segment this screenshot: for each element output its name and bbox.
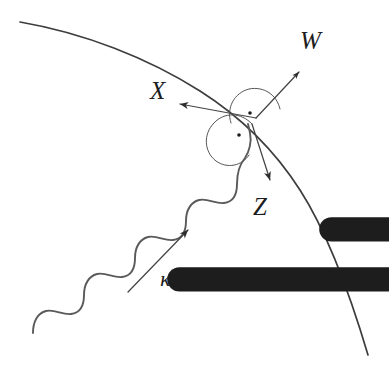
right-angle-markers bbox=[206, 88, 280, 165]
vector-z bbox=[252, 124, 270, 180]
label-x-text: X bbox=[150, 77, 165, 104]
vector-kappa bbox=[128, 230, 188, 292]
label-kappa-text: κ bbox=[160, 266, 171, 291]
label-w-text: W bbox=[300, 27, 321, 54]
vector-diagram-figure: W X Z bbox=[0, 0, 389, 368]
label-z-vector: Z bbox=[253, 194, 267, 219]
wavefront-arc bbox=[20, 22, 368, 355]
label-z-text: Z bbox=[253, 193, 267, 220]
vector-x bbox=[180, 104, 256, 118]
label-x-vector: X bbox=[150, 78, 165, 103]
label-kappa-vector: κ bbox=[160, 268, 171, 290]
incident-wave bbox=[33, 124, 251, 333]
right-angle-dot-icon-upper bbox=[248, 111, 252, 115]
label-w-vector: W bbox=[300, 28, 321, 53]
vector-w bbox=[256, 72, 299, 118]
diagram-canvas bbox=[0, 0, 389, 368]
right-angle-dot-icon-lower bbox=[237, 133, 241, 137]
